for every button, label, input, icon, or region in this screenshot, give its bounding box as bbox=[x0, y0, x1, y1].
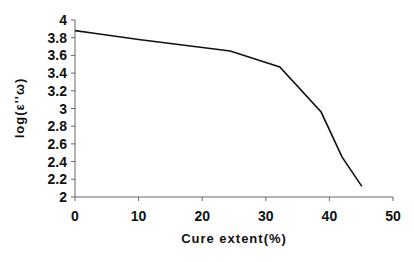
y-tick-label: 4 bbox=[59, 12, 67, 28]
y-tick-label: 2.6 bbox=[48, 136, 68, 152]
y-tick-label: 2.2 bbox=[48, 171, 68, 187]
y-tick-label: 3 bbox=[59, 101, 67, 117]
x-axis-label: Cure extent(%) bbox=[181, 231, 287, 246]
x-tick-label: 10 bbox=[131, 208, 147, 224]
y-tick-label: 2.4 bbox=[48, 154, 68, 170]
y-tick-label: 3.2 bbox=[48, 83, 68, 99]
x-tick-label: 50 bbox=[385, 208, 401, 224]
y-tick-label: 3.6 bbox=[48, 47, 68, 63]
y-tick-label: 3.8 bbox=[48, 30, 68, 46]
y-axis-label: log(ε''ω) bbox=[12, 78, 27, 139]
y-axis: 43.83.63.43.232.82.62.42.22 bbox=[48, 12, 75, 205]
y-tick-label: 2.8 bbox=[48, 118, 68, 134]
data-line bbox=[75, 31, 362, 187]
y-tick-label: 3.4 bbox=[48, 65, 68, 81]
line-chart: 43.83.63.43.232.82.62.42.22 01020304050 … bbox=[0, 0, 414, 262]
x-tick-label: 30 bbox=[258, 208, 274, 224]
x-tick-label: 20 bbox=[194, 208, 210, 224]
x-tick-label: 0 bbox=[71, 208, 79, 224]
x-tick-label: 40 bbox=[322, 208, 338, 224]
x-axis: 01020304050 bbox=[71, 197, 401, 224]
y-tick-label: 2 bbox=[59, 189, 67, 205]
